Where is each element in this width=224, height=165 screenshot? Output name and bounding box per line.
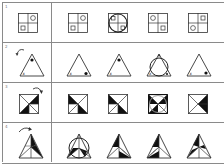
reference-figure: x [12, 43, 46, 83]
triangle-segments-icon [146, 133, 172, 159]
triangle-segments-icon [18, 133, 44, 159]
square-diagonal-segments-icon [68, 94, 88, 114]
reference-figure [12, 123, 46, 163]
square-circle-overlay-icon [108, 13, 128, 33]
row-number: 4 [5, 124, 8, 129]
triangle-circle-overlay-icon: x [146, 53, 172, 77]
row-number: 3 [5, 84, 8, 89]
row-number: 1 [5, 4, 8, 9]
option-d[interactable] [184, 3, 214, 43]
reference-figure [14, 83, 48, 123]
option-c[interactable] [144, 83, 174, 123]
puzzle-row-4: 4 [2, 122, 224, 164]
puzzle-row-3: 3 [2, 82, 224, 123]
square-diagonal-segments-icon [19, 94, 39, 114]
option-a[interactable]: x [62, 43, 96, 83]
square-quadrants-icon [148, 13, 168, 33]
option-a[interactable] [64, 3, 94, 43]
triangle-icon: x [106, 53, 132, 77]
puzzle-table: 1 [2, 2, 224, 162]
triangle-icon: x [186, 53, 212, 77]
triangle-segments-icon [186, 133, 212, 159]
triangle-circle-overlay-icon [65, 133, 93, 159]
triangle-icon: x [19, 53, 45, 77]
option-b[interactable] [104, 83, 134, 123]
puzzle-row-2: 2 x x x [2, 42, 224, 83]
option-a[interactable] [62, 123, 96, 163]
svg-text:x: x [110, 71, 113, 76]
square-quadrants-icon [188, 13, 208, 33]
option-b[interactable] [102, 123, 136, 163]
square-circle-overlay-icon [148, 94, 168, 114]
option-c[interactable] [142, 123, 176, 163]
row-number: 2 [5, 44, 8, 49]
square-quadrants-icon [18, 13, 38, 33]
triangle-segments-icon [106, 133, 132, 159]
rotate-clockwise-arrow-icon [32, 86, 44, 94]
triangle-icon: x [66, 53, 92, 77]
option-b[interactable]: x [102, 43, 136, 83]
square-diagonal-segments-icon [188, 94, 208, 114]
option-a[interactable] [64, 83, 94, 123]
svg-text:x: x [23, 71, 26, 76]
square-quadrants-icon [68, 13, 88, 33]
svg-text:x: x [70, 71, 73, 76]
option-c[interactable] [144, 3, 174, 43]
option-d[interactable] [184, 83, 214, 123]
option-d[interactable]: x [182, 43, 216, 83]
option-b[interactable] [104, 3, 134, 43]
square-diagonal-segments-icon [108, 94, 128, 114]
option-c[interactable]: x [142, 43, 176, 83]
reference-figure [16, 3, 40, 43]
puzzle-row-1: 1 [2, 2, 224, 43]
option-d[interactable] [182, 123, 216, 163]
svg-text:x: x [190, 71, 193, 76]
